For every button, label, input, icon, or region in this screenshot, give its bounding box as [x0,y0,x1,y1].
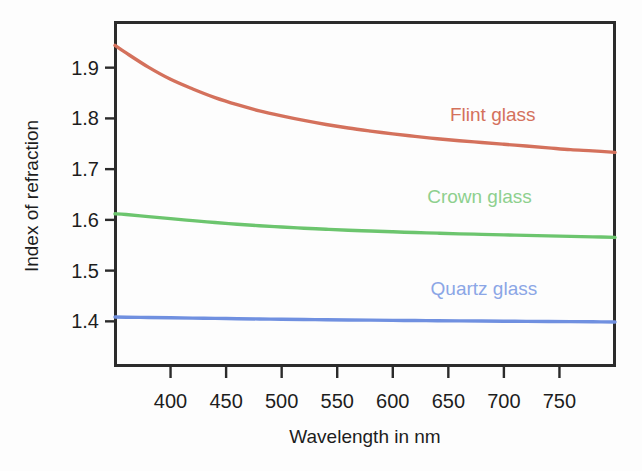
x-tick-label: 400 [154,390,187,412]
y-tick-label: 1.4 [71,310,99,332]
x-tick-label: 600 [376,390,409,412]
y-tick-label: 1.9 [71,57,99,79]
y-tick-label: 1.7 [71,158,99,180]
series-label-crown-glass: Crown glass [427,186,532,207]
series-curve-quartz-glass [115,317,615,322]
series-label-flint-glass: Flint glass [450,104,536,125]
x-tick-label: 450 [209,390,242,412]
y-axis-title: Index of refraction [21,120,42,272]
refraction-index-line-chart: 1.41.51.61.71.81.9 400450500550600650700… [0,0,642,471]
plot-frame [116,23,615,366]
x-tick-label: 700 [487,390,520,412]
series-curve-crown-glass [115,214,615,238]
x-tick-label: 650 [432,390,465,412]
series-curve-flint-glass [115,45,615,152]
series-inline-labels: Flint glassCrown glassQuartz glass [427,104,537,299]
y-tick-label: 1.5 [71,260,99,282]
x-axis-ticks [171,366,560,378]
data-series-group [115,45,615,322]
y-axis-ticks [105,68,115,322]
x-axis-title: Wavelength in nm [289,426,440,447]
y-tick-label: 1.8 [71,107,99,129]
x-tick-label: 500 [265,390,298,412]
series-label-quartz-glass: Quartz glass [431,278,538,299]
x-axis-tick-labels: 400450500550600650700750 [154,390,576,412]
chart-figure: 1.41.51.61.71.81.9 400450500550600650700… [0,0,642,471]
x-tick-label: 750 [543,390,576,412]
y-tick-label: 1.6 [71,209,99,231]
y-axis-tick-labels: 1.41.51.61.71.81.9 [71,57,99,333]
x-tick-label: 550 [321,390,354,412]
